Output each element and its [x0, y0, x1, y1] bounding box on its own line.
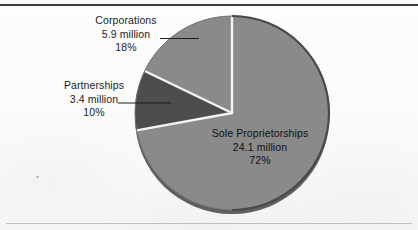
slice-label-partnerships-name: Partnerships: [46, 79, 142, 93]
slice-label-sole-proprietorships-value: 24.1 million: [196, 141, 324, 155]
slice-label-partnerships: Partnerships 3.4 million 10%: [46, 79, 142, 120]
slice-label-partnerships-value: 3.4 million: [46, 93, 142, 107]
slice-label-sole-proprietorships: Sole Proprietorships 24.1 million 72%: [196, 127, 324, 168]
slice-label-sole-proprietorships-percent: 72%: [196, 154, 324, 168]
slice-label-corporations-name: Corporations: [78, 14, 174, 28]
slice-label-corporations-percent: 18%: [78, 41, 174, 55]
slice-label-corporations-value: 5.9 million: [78, 28, 174, 42]
slice-label-corporations: Corporations 5.9 million 18%: [78, 14, 174, 55]
slice-label-sole-proprietorships-name: Sole Proprietorships: [196, 127, 324, 141]
slice-label-partnerships-percent: 10%: [46, 106, 142, 120]
pie-chart-figure: Corporations 5.9 million 18% Partnership…: [0, 0, 418, 230]
